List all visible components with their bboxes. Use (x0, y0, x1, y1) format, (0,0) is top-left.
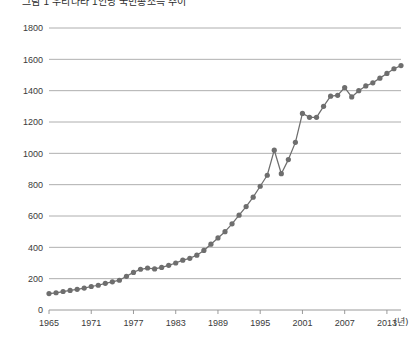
y-tick-label: 800 (28, 180, 43, 190)
y-tick-label: 1600 (23, 55, 43, 65)
chart-container: 그림 1 우리나라 1인당 국민총소득 추이 02004006008001000… (0, 0, 420, 342)
data-point (370, 80, 375, 85)
data-point (180, 258, 185, 263)
x-tick-label: 2001 (292, 318, 312, 328)
x-tick-label: 1995 (250, 318, 270, 328)
data-point (321, 104, 326, 109)
data-point (173, 260, 178, 265)
data-point (258, 184, 263, 189)
line-chart-svg: 020040060080010001200140016001800 196519… (0, 0, 420, 342)
data-point (286, 157, 291, 162)
data-point (307, 115, 312, 120)
data-point (377, 76, 382, 81)
data-line (49, 66, 401, 294)
y-tick-label: 0 (38, 305, 43, 315)
data-point (279, 171, 284, 176)
data-point (96, 283, 101, 288)
data-point (110, 279, 115, 284)
data-point (82, 285, 87, 290)
y-tick-label: 200 (28, 274, 43, 284)
data-point (75, 287, 80, 292)
data-point (335, 93, 340, 98)
data-point (201, 248, 206, 253)
data-point (124, 274, 129, 279)
data-point (236, 213, 241, 218)
x-tick-label: 1965 (39, 318, 59, 328)
x-axis-tick-labels: 196519711977198319891995200120072013 (39, 318, 397, 328)
data-point (229, 221, 234, 226)
data-point (244, 204, 249, 209)
data-point (356, 88, 361, 93)
x-axis-unit-label: (년) (393, 317, 408, 327)
data-point (398, 63, 403, 68)
data-point (293, 140, 298, 145)
data-point (53, 290, 58, 295)
y-tick-label: 1200 (23, 117, 43, 127)
x-tick-label: 1989 (208, 318, 228, 328)
x-tick-label: 2007 (335, 318, 355, 328)
data-point (187, 256, 192, 261)
data-point (68, 288, 73, 293)
x-tick-label: 1971 (81, 318, 101, 328)
data-point (265, 173, 270, 178)
data-point (384, 71, 389, 76)
data-point (166, 263, 171, 268)
x-tick-label: 1977 (123, 318, 143, 328)
data-point (208, 242, 213, 247)
data-point (159, 265, 164, 270)
y-axis-tick-labels: 020040060080010001200140016001800 (23, 23, 43, 315)
data-point (222, 229, 227, 234)
x-tick-label: 1983 (166, 318, 186, 328)
y-tick-label: 400 (28, 243, 43, 253)
data-point (328, 94, 333, 99)
data-point (103, 281, 108, 286)
data-point (251, 195, 256, 200)
data-point (89, 284, 94, 289)
data-point-markers (46, 63, 403, 296)
data-point (46, 291, 51, 296)
data-point (349, 94, 354, 99)
data-point (215, 235, 220, 240)
data-point (300, 111, 305, 116)
data-point (194, 253, 199, 258)
data-point (342, 85, 347, 90)
data-point (60, 289, 65, 294)
data-point (138, 267, 143, 272)
data-point (131, 270, 136, 275)
data-point (314, 115, 319, 120)
y-tick-label: 1800 (23, 23, 43, 33)
gridlines-group (49, 28, 401, 310)
y-tick-label: 1000 (23, 149, 43, 159)
data-point (391, 66, 396, 71)
y-tick-label: 1400 (23, 86, 43, 96)
x-axis-ticks (49, 310, 387, 314)
data-point (145, 265, 150, 270)
data-point (152, 266, 157, 271)
data-point (363, 83, 368, 88)
data-point (117, 278, 122, 283)
data-point (272, 148, 277, 153)
y-tick-label: 600 (28, 211, 43, 221)
